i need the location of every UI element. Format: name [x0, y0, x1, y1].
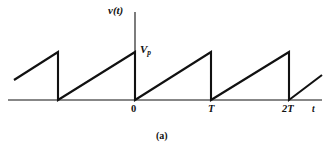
x-tick-label-0: 0 — [131, 104, 136, 115]
x-tick-label-T: T — [208, 104, 214, 115]
peak-amplitude-label: Vp — [140, 44, 151, 55]
sawtooth-waveform-figure: v(t) Vp 0 T 2T t (a) — [0, 0, 335, 149]
waveform-plot — [0, 0, 335, 149]
x-tick-label-2T: 2T — [282, 104, 294, 115]
sawtooth-trace — [14, 52, 322, 100]
x-axis-label: t — [312, 105, 315, 115]
y-axis-label: v(t) — [108, 5, 123, 16]
figure-caption: (a) — [156, 131, 168, 141]
peak-amplitude-subscript: p — [147, 48, 151, 57]
